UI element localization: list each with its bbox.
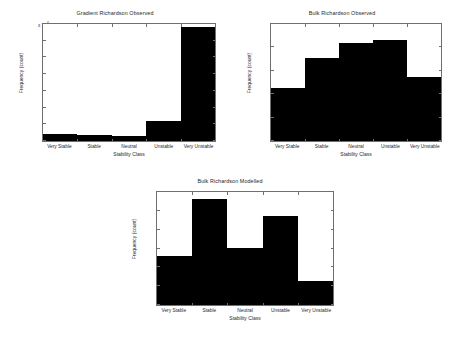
- x-axis-tick-label: Stable: [192, 308, 228, 314]
- x-axis-tick-label: Very Stable: [42, 144, 77, 150]
- bar: [112, 136, 146, 141]
- x-axis-tick-label: Stable: [304, 144, 338, 150]
- x-axis-tick-mark: [298, 303, 299, 306]
- x-axis-tick-mark: [305, 139, 306, 142]
- x-axis-category-labels: Very StableStableNeutralUnstableVery Uns…: [42, 144, 216, 150]
- x-axis-tick-label: Neutral: [112, 144, 147, 150]
- x-axis-tick-label: Very Unstable: [298, 308, 334, 314]
- y-axis-tick-mark: [271, 140, 274, 141]
- x-axis-tick-label: Unstable: [373, 144, 407, 150]
- y-axis-tick-mark: [439, 140, 442, 141]
- y-axis-tick-mark: [331, 304, 334, 305]
- y-axis-tick-mark: [271, 93, 274, 94]
- x-axis-tick-mark: [181, 139, 182, 142]
- x-axis-tick-mark: [339, 139, 340, 142]
- bar-series: [43, 24, 215, 141]
- y-axis-title: Frequency (count): [246, 28, 252, 118]
- y-axis-tick-mark: [439, 70, 442, 71]
- y-axis-tick-mark: [43, 90, 46, 91]
- x-axis-tick-mark: [77, 24, 78, 27]
- bar-series: [157, 192, 333, 305]
- y-axis-tick-mark: [157, 210, 160, 211]
- x-axis-tick-mark: [407, 139, 408, 142]
- y-axis-tick-mark: [271, 23, 274, 24]
- bar-series: [271, 24, 441, 141]
- y-axis-tick-mark: [213, 23, 216, 24]
- bar: [146, 121, 180, 141]
- x-axis-tick-mark: [339, 24, 340, 27]
- bar: [339, 43, 373, 141]
- x-axis-tick-mark: [77, 139, 78, 142]
- y-axis-tick-mark: [213, 40, 216, 41]
- bar: [192, 199, 227, 305]
- chart-title: Gradient Richardson Observed: [8, 10, 222, 16]
- bar: [43, 134, 77, 141]
- x-axis-tick-mark: [263, 303, 264, 306]
- x-axis-tick-label: Unstable: [146, 144, 181, 150]
- y-axis-tick-mark: [157, 304, 160, 305]
- y-axis-tick-mark: [213, 73, 216, 74]
- y-axis-tick-mark: [331, 248, 334, 249]
- y-axis-tick-mark: [213, 140, 216, 141]
- bar: [77, 135, 111, 141]
- x-axis-tick-mark: [373, 139, 374, 142]
- bar: [373, 40, 407, 141]
- y-axis-tick-mark: [157, 285, 160, 286]
- x-axis-tick-mark: [146, 139, 147, 142]
- bar: [271, 88, 305, 141]
- x-axis-tick-mark: [227, 192, 228, 195]
- y-axis-tick-mark: [43, 73, 46, 74]
- x-axis-category-labels: Very StableStableNeutralUnstableVery Uns…: [156, 308, 334, 314]
- y-axis-tick-mark: [331, 285, 334, 286]
- x-axis-tick-mark: [112, 24, 113, 27]
- x-axis-tick-mark: [192, 303, 193, 306]
- y-axis-title: Frequency (count): [131, 194, 137, 284]
- y-axis-tick-mark: [331, 229, 334, 230]
- y-axis-tick-mark: [43, 40, 46, 41]
- y-axis-tick-mark: [439, 93, 442, 94]
- x-axis-title: Stability Class: [270, 151, 442, 157]
- bar: [227, 248, 262, 305]
- y-axis-tick-mark: [43, 140, 46, 141]
- chart-bulk-richardson-modelled: Bulk Richardson Modelled Frequency (coun…: [118, 178, 342, 336]
- bar: [407, 77, 441, 141]
- y-axis-tick-mark: [271, 117, 274, 118]
- y-axis-tick-mark: [439, 117, 442, 118]
- x-axis-tick-label: Neutral: [339, 144, 373, 150]
- bar: [298, 281, 333, 305]
- x-axis-tick-mark: [146, 24, 147, 27]
- x-axis-tick-mark: [263, 192, 264, 195]
- x-axis-category-labels: Very StableStableNeutralUnstableVery Uns…: [270, 144, 442, 150]
- x-axis-title: Stability Class: [156, 315, 334, 321]
- y-axis-tick-mark: [439, 23, 442, 24]
- y-axis-tick-mark: [43, 56, 46, 57]
- chart-title: Bulk Richardson Modelled: [118, 178, 342, 184]
- bar: [181, 27, 215, 141]
- x-axis-tick-mark: [305, 24, 306, 27]
- x-axis-tick-mark: [227, 303, 228, 306]
- x-axis-tick-label: Very Stable: [270, 144, 304, 150]
- plot-area: 020004000600080001000012000: [156, 191, 334, 306]
- y-axis-tick-mark: [157, 248, 160, 249]
- bar: [157, 256, 192, 305]
- x-axis-tick-mark: [407, 24, 408, 27]
- y-axis-title: Frequency (count): [18, 28, 24, 118]
- chart-gradient-richardson-observed: Gradient Richardson Observed x 104 Frequ…: [8, 10, 222, 172]
- y-axis-tick-mark: [213, 56, 216, 57]
- x-axis-tick-label: Very Unstable: [408, 144, 442, 150]
- y-axis-tick-mark: [213, 107, 216, 108]
- plot-area: 0200040006000800010000: [270, 23, 442, 142]
- y-axis-tick-mark: [271, 70, 274, 71]
- x-axis-tick-mark: [192, 192, 193, 195]
- x-axis-title: Stability Class: [42, 151, 216, 157]
- x-axis-tick-label: Unstable: [263, 308, 299, 314]
- y-axis-tick-mark: [331, 266, 334, 267]
- y-axis-tick-mark: [331, 191, 334, 192]
- y-axis-tick-mark: [157, 266, 160, 267]
- y-axis-tick-mark: [271, 46, 274, 47]
- x-axis-tick-label: Very Stable: [156, 308, 192, 314]
- y-axis-tick-mark: [439, 46, 442, 47]
- y-axis-tick-mark: [43, 107, 46, 108]
- chart-bulk-richardson-observed: Bulk Richardson Observed Frequency (coun…: [236, 10, 448, 172]
- x-axis-tick-mark: [373, 24, 374, 27]
